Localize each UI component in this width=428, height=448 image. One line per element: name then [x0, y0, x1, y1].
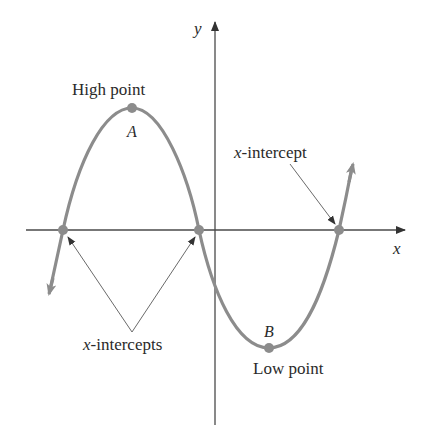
pointer-right-intercept — [290, 164, 335, 224]
y-axis-label: y — [192, 19, 202, 38]
x-intercept-label: x-intercept — [233, 143, 307, 162]
high-point-letter: A — [126, 123, 137, 140]
curve-arrow-right — [349, 164, 353, 182]
low-point-dot — [264, 343, 274, 353]
pointer-middle-intercept — [132, 237, 195, 332]
x-intercepts-label: x-intercepts — [82, 335, 162, 354]
high-point-caption: High point — [72, 80, 145, 99]
x-intercept-dot-right — [334, 225, 344, 235]
x-intercept-dot-left — [58, 225, 68, 235]
high-point-dot — [127, 103, 137, 113]
pointer-left-intercept — [68, 237, 132, 332]
x-axis-label: x — [392, 239, 401, 258]
curve-arrow-left — [49, 278, 53, 294]
x-intercept-dot-middle — [194, 225, 204, 235]
low-point-caption: Low point — [253, 359, 324, 378]
graph-svg: y x High point A B Low point x-intercept… — [0, 0, 428, 448]
function-graph-diagram: y x High point A B Low point x-intercept… — [0, 0, 428, 448]
low-point-letter: B — [264, 323, 274, 340]
